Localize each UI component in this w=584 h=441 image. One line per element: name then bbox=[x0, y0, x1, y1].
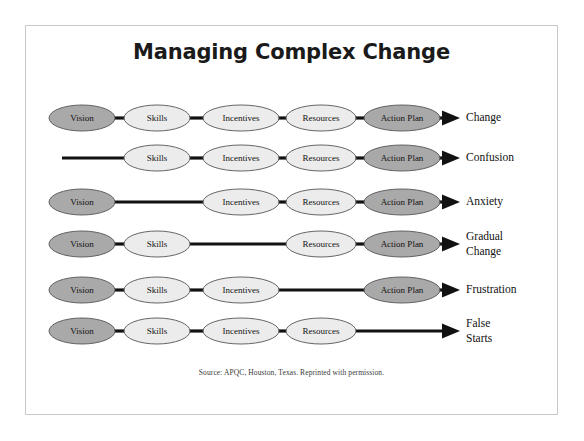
node-label-actionplan: Action Plan bbox=[381, 285, 424, 295]
node-label-actionplan: Action Plan bbox=[381, 153, 424, 163]
node-label-resources: Resources bbox=[303, 113, 340, 123]
node-label-vision: Vision bbox=[70, 113, 94, 123]
node-label-resources: Resources bbox=[303, 239, 340, 249]
diagram-canvas: Managing Complex Change VisionSkillsInce… bbox=[0, 0, 584, 441]
node-label-incentives: Incentives bbox=[223, 197, 260, 207]
outcome-label: Frustration bbox=[466, 283, 517, 295]
outcome-label: Anxiety bbox=[466, 195, 503, 208]
diagram-row: SkillsIncentivesResourcesAction PlanConf… bbox=[62, 145, 514, 171]
arrow-head-icon bbox=[442, 195, 460, 210]
node-label-resources: Resources bbox=[303, 153, 340, 163]
node-label-skills: Skills bbox=[147, 153, 168, 163]
node-label-skills: Skills bbox=[147, 113, 168, 123]
outcome-label: Change bbox=[466, 245, 501, 258]
node-label-incentives: Incentives bbox=[223, 153, 260, 163]
source-note: Source: APQC, Houston, Texas. Reprinted … bbox=[25, 368, 558, 377]
arrow-head-icon bbox=[442, 237, 460, 252]
node-label-vision: Vision bbox=[70, 197, 94, 207]
diagram-rows: VisionSkillsIncentivesResourcesAction Pl… bbox=[49, 105, 517, 344]
diagram-row: VisionSkillsIncentivesResourcesFalseStar… bbox=[49, 317, 493, 344]
arrow-head-icon bbox=[442, 283, 460, 298]
node-label-incentives: Incentives bbox=[223, 326, 260, 336]
arrow-head-icon bbox=[442, 151, 460, 166]
node-label-actionplan: Action Plan bbox=[381, 113, 424, 123]
node-label-skills: Skills bbox=[147, 285, 168, 295]
node-label-vision: Vision bbox=[70, 285, 94, 295]
outcome-label: Starts bbox=[466, 332, 493, 344]
outcome-label: Change bbox=[466, 111, 501, 124]
node-label-actionplan: Action Plan bbox=[381, 197, 424, 207]
node-label-incentives: Incentives bbox=[223, 113, 260, 123]
diagram-row: VisionSkillsIncentivesAction PlanFrustra… bbox=[49, 277, 517, 303]
node-label-skills: Skills bbox=[147, 326, 168, 336]
diagram-row: VisionIncentivesResourcesAction PlanAnxi… bbox=[49, 189, 503, 215]
node-label-resources: Resources bbox=[303, 197, 340, 207]
node-label-incentives: Incentives bbox=[223, 285, 260, 295]
node-label-resources: Resources bbox=[303, 326, 340, 336]
node-label-skills: Skills bbox=[147, 239, 168, 249]
arrow-head-icon bbox=[442, 111, 460, 126]
outcome-label: Confusion bbox=[466, 151, 514, 163]
arrow-head-icon bbox=[442, 324, 460, 339]
outcome-label: Gradual bbox=[466, 230, 503, 242]
node-label-vision: Vision bbox=[70, 326, 94, 336]
outcome-label: False bbox=[466, 317, 490, 329]
diagram-row: VisionSkillsIncentivesResourcesAction Pl… bbox=[49, 105, 501, 131]
node-label-actionplan: Action Plan bbox=[381, 239, 424, 249]
diagram-row: VisionSkillsResourcesAction PlanGradualC… bbox=[49, 230, 503, 258]
node-label-vision: Vision bbox=[70, 239, 94, 249]
